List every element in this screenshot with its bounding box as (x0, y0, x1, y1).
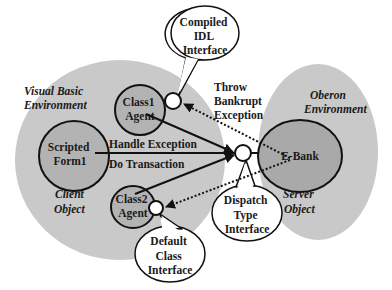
do-transaction-label: Do Transaction (109, 158, 185, 170)
handle-exception-label: Handle Exception (109, 138, 197, 151)
scripted-form1-node: Scripted Form1 (39, 121, 109, 191)
compiled-idl-interface-port (165, 93, 181, 109)
dispatch-type-interface-port (235, 145, 251, 161)
throw-bankrupt-exception-label: Throw Bankrupt Exception (214, 81, 265, 122)
svg-text:Class2 Agent: Class2 Agent (116, 193, 151, 220)
default-class-interface-port (149, 201, 163, 215)
class1-agent-node: Class1 Agent (115, 85, 165, 135)
com-oberon-interop-diagram: Visual Basic Environment Oberon Environm… (0, 0, 392, 290)
svg-text:E-Bank: E-Bank (281, 150, 319, 162)
ebank-node: E-Bank (258, 120, 342, 192)
svg-text:Class1 Agent: Class1 Agent (123, 96, 158, 123)
